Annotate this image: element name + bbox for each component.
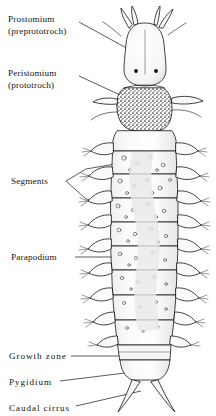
label-caudal-cirrus-line1: Caudal cirrus — [9, 403, 70, 413]
parapodium-right-3 — [177, 191, 201, 204]
parapodium-right-5 — [178, 239, 201, 252]
parapodium-right-7 — [176, 288, 199, 301]
label-peristomium-line2: (prototroch) — [8, 80, 57, 92]
segment-1 — [113, 131, 177, 151]
parapodium-left-4 — [88, 215, 111, 228]
peristomium-cirrus-right — [172, 110, 201, 117]
parapodium-left-6 — [89, 263, 112, 276]
peristomium-cirrus-left — [91, 112, 117, 120]
parapodium-right-8 — [174, 312, 196, 325]
peristomium-palp-right — [172, 96, 203, 104]
parapodium-left-9 — [97, 336, 118, 347]
eye-spot-right — [154, 69, 158, 73]
parapodium-left-3 — [88, 191, 112, 204]
pygidium — [120, 360, 170, 380]
parapodium-right-2 — [176, 167, 200, 180]
parapodium-left-8 — [93, 312, 115, 325]
annelid-body — [79, 6, 210, 412]
label-growth-zone: Growth zone — [9, 351, 67, 363]
label-caudal-cirrus: Caudal cirrus — [9, 403, 70, 415]
growth-zone-band — [118, 345, 171, 360]
label-pygidium-line1: Pygidium — [9, 377, 52, 387]
label-peristomium-line1: Peristomium — [8, 68, 57, 78]
antenna-lateral-left — [103, 22, 121, 36]
parapodium-right-6 — [177, 263, 200, 276]
eye-spot-left — [134, 69, 138, 73]
parapodium-left-1 — [91, 143, 113, 155]
label-pygidium: Pygidium — [9, 377, 52, 389]
antenna-inner-right — [154, 6, 160, 25]
antenna-inner-left — [132, 6, 138, 25]
caudal-cirrus-left — [118, 380, 140, 412]
parapodium-right-1 — [176, 143, 198, 155]
parapodium-right-9 — [170, 336, 191, 347]
label-segments: Segments — [11, 176, 48, 188]
parapodium-left-2 — [89, 167, 113, 180]
parapodium-right-4 — [178, 215, 201, 228]
label-parapodium: Parapodium — [11, 252, 57, 264]
antenna-lateral-right — [168, 23, 186, 35]
parapodium-left-5 — [88, 239, 111, 252]
leader-pygidium — [60, 372, 133, 381]
peristomium-palp-left — [93, 98, 117, 104]
antenna-outer-left — [121, 8, 132, 28]
label-growth-zone-line1: Growth zone — [9, 351, 67, 361]
label-prostomium-line1: Prostomium — [8, 14, 54, 24]
peristomium-outline — [117, 88, 172, 132]
label-prostomium: Prostomium (preprototroch) — [8, 14, 66, 37]
antenna-outer-right — [159, 9, 173, 28]
parapodium-left-7 — [90, 288, 113, 301]
label-segments-line1: Segments — [11, 176, 48, 186]
label-prostomium-line2: (preprototroch) — [8, 26, 66, 38]
caudal-cirrus-right — [151, 380, 175, 412]
label-peristomium: Peristomium (prototroch) — [8, 68, 57, 91]
label-parapodium-line1: Parapodium — [11, 252, 57, 262]
